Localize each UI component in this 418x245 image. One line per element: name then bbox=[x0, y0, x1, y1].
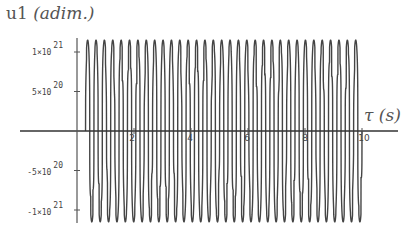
y-axis-title: u1 (adim.) bbox=[6, 3, 94, 23]
y-axis-title-unit: (adim.) bbox=[33, 3, 94, 23]
y-tick-label: 5×1020 bbox=[32, 84, 63, 97]
x-tick-label: 8 bbox=[302, 133, 308, 143]
chart: u1 (adim.) τ (s) 1×1021 5×1020 -5×1020 -… bbox=[0, 0, 418, 245]
x-tick-label: 4 bbox=[187, 133, 193, 143]
x-tick-label: 6 bbox=[244, 133, 250, 143]
x-tick-label: 2 bbox=[129, 133, 135, 143]
x-axis-title: τ (s) bbox=[364, 105, 401, 125]
y-tick-label: 1×1021 bbox=[32, 44, 63, 57]
y-tick-label: -5×1020 bbox=[27, 164, 63, 177]
x-tick-label: 10 bbox=[358, 133, 369, 143]
y-axis-title-main: u1 bbox=[6, 3, 33, 23]
y-tick-label: -1×1021 bbox=[27, 204, 63, 217]
